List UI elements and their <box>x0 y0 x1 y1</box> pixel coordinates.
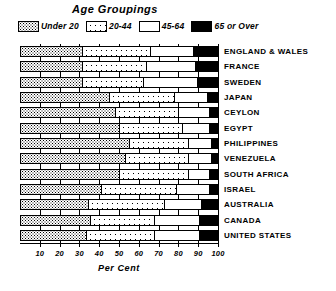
black-swatch-icon <box>191 21 212 32</box>
category-label: PHILIPPINES <box>224 138 278 149</box>
x-tick-10 <box>40 243 41 247</box>
bar-segment-45-64 <box>154 216 199 225</box>
bar-segment-under-20 <box>21 47 82 56</box>
bar-segment-65-or-over <box>201 200 217 209</box>
bar-row[interactable] <box>20 61 218 72</box>
bar-segment-under-20 <box>21 154 125 163</box>
bar-segment-65-or-over <box>197 78 217 87</box>
bar-segment-20-44 <box>88 200 164 209</box>
bar-row[interactable] <box>20 230 218 241</box>
bar-row[interactable] <box>20 153 218 164</box>
legend-entry-20-44[interactable]: 20-44 <box>86 21 139 32</box>
bar-segment-under-20 <box>21 200 88 209</box>
bar-segment-20-44 <box>125 154 188 163</box>
bar-segment-20-44 <box>82 47 151 56</box>
category-label: CEYLON <box>224 107 260 118</box>
bar-row[interactable] <box>20 46 218 57</box>
bar-segment-under-20 <box>21 139 129 148</box>
legend-entry-45-64[interactable]: 45-64 <box>139 21 192 32</box>
x-tick-40 <box>99 243 100 247</box>
bar-segment-20-44 <box>101 185 175 194</box>
bar-row[interactable] <box>20 199 218 210</box>
legend-label: Under 20 <box>41 21 79 31</box>
x-tick-50 <box>119 243 120 247</box>
bar-segment-20-44 <box>82 62 147 71</box>
bar-segment-under-20 <box>21 185 101 194</box>
category-label: ENGLAND & WALES <box>224 46 308 57</box>
x-axis-tick-labels: 102030405060708090100 <box>0 249 336 261</box>
bar-segment-45-64 <box>143 78 198 87</box>
bar-segment-20-44 <box>119 124 182 133</box>
bar-row[interactable] <box>20 92 218 103</box>
bar-segment-45-64 <box>178 108 209 117</box>
bar-segment-20-44 <box>109 93 174 102</box>
category-label: CANADA <box>224 215 261 226</box>
bar-row[interactable] <box>20 77 218 88</box>
bar-segment-under-20 <box>21 231 86 240</box>
category-label: EGYPT <box>224 123 253 134</box>
bar-segment-45-64 <box>188 154 212 163</box>
x-tick-label-20: 20 <box>55 249 64 258</box>
x-tick-80 <box>178 243 179 247</box>
category-label: UNITED STATES <box>224 230 292 241</box>
bar-row[interactable] <box>20 138 218 149</box>
bar-segment-under-20 <box>21 93 109 102</box>
x-axis <box>20 243 218 248</box>
x-tick-label-100: 100 <box>211 249 224 258</box>
bar-segment-45-64 <box>174 93 207 102</box>
bar-segment-65-or-over <box>193 47 217 56</box>
bar-segment-65-or-over <box>209 108 217 117</box>
category-label: AUSTRALIA <box>224 199 274 210</box>
bar-segment-45-64 <box>176 185 209 194</box>
bar-segment-20-44 <box>90 216 155 225</box>
bar-segment-20-44 <box>129 139 188 148</box>
bar-segment-65-or-over <box>209 170 217 179</box>
x-tick-label-30: 30 <box>75 249 84 258</box>
bar-segment-65-or-over <box>209 185 217 194</box>
category-label: SWEDEN <box>224 77 262 88</box>
bar-segment-20-44 <box>82 78 143 87</box>
age-groupings-chart: Age Groupings Under 2020-4445-6465 or Ov… <box>0 0 336 291</box>
bar-segment-20-44 <box>115 108 178 117</box>
bar-segment-45-64 <box>150 47 193 56</box>
bar-row[interactable] <box>20 107 218 118</box>
plot-area <box>20 44 218 243</box>
bar-segment-20-44 <box>119 170 188 179</box>
bar-row[interactable] <box>20 123 218 134</box>
legend-entry-under-20[interactable]: Under 20 <box>18 21 86 32</box>
bar-segment-under-20 <box>21 108 115 117</box>
bar-segment-65-or-over <box>199 231 217 240</box>
x-tick-20 <box>60 243 61 247</box>
bar-row[interactable] <box>20 184 218 195</box>
legend-label: 20-44 <box>109 21 132 31</box>
bar-segment-65-or-over <box>211 139 217 148</box>
x-tick-label-90: 90 <box>194 249 203 258</box>
legend-label: 45-64 <box>162 21 185 31</box>
bar-segment-under-20 <box>21 170 119 179</box>
bar-row[interactable] <box>20 215 218 226</box>
x-tick-label-80: 80 <box>174 249 183 258</box>
x-tick-label-70: 70 <box>154 249 163 258</box>
bar-row[interactable] <box>20 169 218 180</box>
gridline-100 <box>218 44 219 243</box>
category-label: JAPAN <box>224 92 253 103</box>
chart-title: Age Groupings <box>0 3 230 15</box>
x-tick-90 <box>198 243 199 247</box>
x-tick-label-40: 40 <box>95 249 104 258</box>
chart-legend: Under 2020-4445-6465 or Over <box>18 19 232 33</box>
x-tick-label-50: 50 <box>115 249 124 258</box>
bar-segment-20-44 <box>86 231 155 240</box>
legend-entry-65-or-over[interactable]: 65 or Over <box>191 21 258 32</box>
legend-label: 65 or Over <box>214 21 258 31</box>
coarse-dot-swatch-icon <box>86 21 107 32</box>
bar-segment-65-or-over <box>199 216 217 225</box>
bar-segment-under-20 <box>21 78 82 87</box>
bar-group <box>20 44 218 243</box>
category-label: SOUTH AFRICA <box>224 169 289 180</box>
x-tick-60 <box>139 243 140 247</box>
fine-stipple-swatch-icon <box>18 21 39 32</box>
bar-segment-under-20 <box>21 216 90 225</box>
bar-segment-45-64 <box>146 62 195 71</box>
x-tick-label-10: 10 <box>35 249 44 258</box>
bar-segment-65-or-over <box>211 154 217 163</box>
